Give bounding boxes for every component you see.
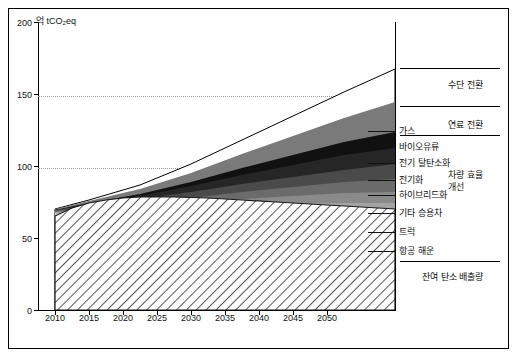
bracket-sep-2 [400,135,500,136]
x-tick-2040: 2040 [249,313,269,323]
x-tick-2025: 2025 [147,313,167,323]
x-tick-2020: 2020 [113,313,133,323]
plot-right-edge [395,22,396,311]
chart-root: 억 tCO₂eq 200 150 100 50 0 [0,0,517,357]
bracket-sep-3 [400,261,500,262]
bracket-label-수단전환: 수단 전환 [448,78,483,91]
leader-바이오유류 [368,147,396,148]
leader-트럭 [368,232,396,233]
y-tick-100: 100 [10,162,32,172]
bracket-label-잔여탄소배출량: 잔여 탄소 배출량 [422,270,483,283]
leader-전기화 [368,180,396,181]
leader-기타승용차 [368,213,396,214]
y-tick-150: 150 [10,90,32,100]
x-tick-2045: 2045 [283,313,303,323]
x-tick-2015: 2015 [79,313,99,323]
y-tick-0: 0 [10,306,32,316]
x-axis-line [38,310,396,311]
bracket-sep-1 [400,106,500,107]
x-tick-2035: 2035 [215,313,235,323]
y-tick-200: 200 [10,18,32,28]
x-tick-2050: 2050 [317,313,337,323]
y-tick-50: 50 [10,234,32,244]
bracket-sep-top [400,68,500,69]
bracket-label-개선: 개선 [448,180,464,193]
x-tick-2010: 2010 [45,313,65,323]
chart-plot-area [38,22,396,310]
area-잔여탄소배출량 [55,197,395,310]
bracket-label-연료전환: 연료 전환 [448,118,483,131]
leader-하이브리드화 [368,195,396,196]
right-bracket-panel: 수단 전환 연료 전환 차량 효율 개선 잔여 탄소 배출량 [400,22,500,310]
x-tick-2030: 2030 [181,313,201,323]
y-tickmark-0 [34,310,38,311]
leader-전기탈탄소화 [368,163,396,164]
leader-항공해운 [368,251,396,252]
leader-가스 [368,131,396,132]
